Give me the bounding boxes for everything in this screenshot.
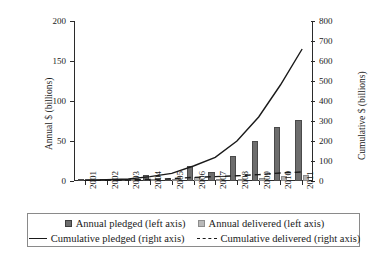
x-axis-year-label: 2008 — [241, 171, 250, 189]
axis-tick-label: 600 — [319, 57, 333, 66]
legend-label: Annual delivered (left axis) — [209, 218, 325, 229]
x-axis-year-label: 2003 — [132, 171, 141, 189]
x-axis-year-label: 2010 — [284, 171, 293, 189]
axis-tick — [237, 181, 238, 185]
legend-item-annual-pledged: Annual pledged (left axis) — [65, 218, 186, 229]
legend-label: Annual pledged (left axis) — [76, 218, 186, 229]
legend: Annual pledged (left axis) Annual delive… — [27, 213, 360, 247]
axis-tick — [311, 101, 315, 102]
square-dark-icon — [65, 220, 72, 227]
axis-tick — [70, 21, 74, 22]
axis-tick — [128, 181, 129, 185]
x-axis-year-label: 2009 — [263, 171, 272, 189]
axis-tick-label: 700 — [319, 37, 333, 46]
axis-tick — [70, 141, 74, 142]
x-axis-year-label: 2001 — [89, 171, 98, 189]
x-axis-year-label: 2005 — [176, 171, 185, 189]
solid-line-icon — [29, 238, 47, 239]
legend-item-cumulative-pledged: Cumulative pledged (right axis) — [29, 233, 185, 244]
legend-item-annual-delivered: Annual delivered (left axis) — [198, 218, 325, 229]
cumulative-pledged-line — [85, 49, 302, 180]
axis-tick-label: 200 — [319, 137, 333, 146]
x-axis-year-label: 2002 — [111, 171, 120, 189]
square-light-icon — [198, 220, 205, 227]
axis-tick — [194, 181, 195, 185]
axis-tick — [311, 161, 315, 162]
right-axis-title: Cumulative $ (billions) — [357, 71, 367, 160]
lines-layer — [74, 21, 313, 181]
axis-tick-label: 0 — [40, 177, 66, 186]
axis-tick — [172, 181, 173, 185]
x-axis-year-label: 2011 — [306, 171, 315, 189]
axis-tick — [70, 101, 74, 102]
legend-row-top: Annual pledged (left axis) Annual delive… — [28, 215, 361, 231]
legend-row-bottom: Cumulative pledged (right axis) Cumulati… — [28, 230, 361, 246]
axis-tick — [107, 181, 108, 185]
axis-tick — [311, 61, 315, 62]
legend-label: Cumulative pledged (right axis) — [51, 233, 185, 244]
axis-tick — [215, 181, 216, 185]
legend-item-cumulative-delivered: Cumulative delivered (right axis) — [197, 233, 361, 244]
axis-tick — [85, 181, 86, 185]
left-axis-title: Annual $ (billions) — [44, 78, 54, 150]
dashed-line-icon — [197, 238, 217, 239]
axis-tick — [311, 121, 315, 122]
axis-tick-label: 200 — [40, 17, 66, 26]
axis-tick — [311, 21, 315, 22]
axis-tick — [311, 41, 315, 42]
axis-tick — [311, 141, 315, 142]
legend-label: Cumulative delivered (right axis) — [221, 233, 361, 244]
x-axis-year-label: 2004 — [154, 171, 163, 189]
axis-tick — [280, 181, 281, 185]
axis-tick — [70, 61, 74, 62]
plot-area — [74, 21, 313, 181]
axis-tick-label: 0 — [319, 177, 324, 186]
x-axis-year-label: 2007 — [219, 171, 228, 189]
axis-tick — [70, 181, 74, 182]
axis-tick-label: 500 — [319, 77, 333, 86]
axis-tick — [150, 181, 151, 185]
axis-tick-label: 300 — [319, 117, 333, 126]
axis-tick-label: 800 — [319, 17, 333, 26]
axis-tick — [311, 81, 315, 82]
chart-figure: 050100150200 0100200300400500600700800 2… — [0, 0, 387, 254]
axis-tick-label: 400 — [319, 97, 333, 106]
axis-tick — [302, 181, 303, 185]
axis-tick-label: 100 — [319, 157, 333, 166]
axis-tick — [259, 181, 260, 185]
x-axis-year-label: 2006 — [198, 171, 207, 189]
axis-tick-label: 150 — [40, 57, 66, 66]
